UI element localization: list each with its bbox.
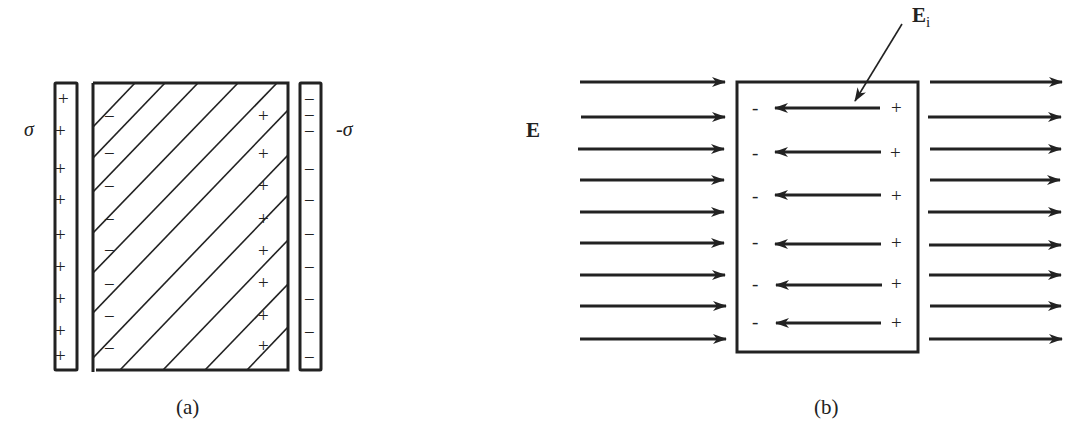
svg-text:Ei: Ei: [912, 3, 930, 30]
dielectric-polarization-figure: σ + + + + + + + + +: [0, 0, 1087, 443]
panel-a-caption: (a): [176, 395, 199, 419]
left-plate-plus-charges: + + + + + + + + +: [55, 88, 69, 366]
minus-sign: -: [752, 185, 758, 206]
panel-b-caption: (b): [814, 395, 839, 419]
plus-sign: +: [890, 142, 901, 163]
plus-sign: +: [55, 288, 66, 309]
plus-sign: +: [891, 273, 902, 294]
panel-a: σ + + + + + + + + +: [24, 83, 354, 419]
induced-negative-charges: - - - - - -: [752, 97, 758, 332]
minus-sign: -: [752, 231, 758, 252]
internal-field-symbol: E: [912, 3, 926, 27]
minus-sign: −: [304, 190, 315, 211]
minus-sign: −: [304, 224, 315, 245]
surface-charge-label-right: -σ: [336, 118, 354, 140]
external-field-arrows-right: [928, 82, 1062, 339]
surface-charge-label-left: σ: [24, 118, 35, 140]
plus-sign: +: [258, 272, 269, 293]
plus-sign: +: [55, 320, 66, 341]
minus-sign: −: [104, 306, 115, 327]
minus-sign: -: [752, 97, 758, 118]
minus-sign: -: [752, 273, 758, 294]
minus-sign: −: [104, 209, 115, 230]
dielectric-bound-negative-charges: − − − − − − − −: [104, 106, 115, 359]
minus-sign: −: [304, 289, 315, 310]
minus-sign: -: [752, 142, 758, 163]
minus-sign: -: [752, 311, 758, 332]
minus-sign: −: [304, 121, 315, 142]
minus-sign: −: [104, 240, 115, 261]
plus-sign: +: [891, 97, 902, 118]
plus-sign: +: [58, 88, 69, 109]
plus-sign: +: [55, 224, 66, 245]
minus-sign: −: [104, 143, 115, 164]
plus-sign: +: [258, 305, 269, 326]
plus-sign: +: [55, 120, 66, 141]
dielectric-bound-positive-charges: + + + + + + + +: [258, 105, 269, 356]
internal-field-arrows: [775, 108, 882, 323]
plus-sign: +: [55, 256, 66, 277]
plus-sign: +: [55, 189, 66, 210]
internal-field-pointer: [855, 24, 902, 101]
plus-sign: +: [55, 158, 66, 179]
minus-sign: −: [304, 322, 315, 343]
plus-sign: +: [258, 335, 269, 356]
minus-sign: −: [104, 338, 115, 359]
panel-b: E - - - - - -: [526, 3, 1062, 419]
plus-sign: +: [258, 143, 269, 164]
minus-sign: −: [304, 257, 315, 278]
plus-sign: +: [891, 185, 902, 206]
plus-sign: +: [258, 175, 269, 196]
plus-sign: +: [258, 208, 269, 229]
plus-sign: +: [258, 105, 269, 126]
minus-sign: −: [104, 274, 115, 295]
plus-sign: +: [891, 232, 902, 253]
minus-sign: −: [304, 159, 315, 180]
plus-sign: +: [258, 240, 269, 261]
external-field-arrows-left: [578, 82, 726, 339]
external-field-label: E: [526, 118, 540, 142]
internal-field-subscript: i: [926, 14, 930, 30]
minus-sign: −: [104, 176, 115, 197]
plus-sign: +: [55, 345, 66, 366]
induced-positive-charges: + + + + + +: [890, 97, 902, 333]
right-plate-minus-charges: − − − − − − − − − −: [304, 89, 315, 368]
plus-sign: +: [891, 312, 902, 333]
minus-sign: −: [304, 347, 315, 368]
minus-sign: −: [104, 106, 115, 127]
